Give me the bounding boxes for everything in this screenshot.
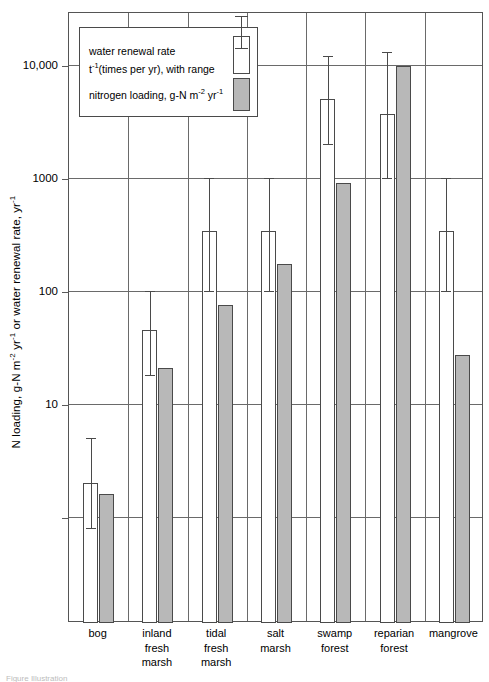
bar-nitrogen-loading-mangrove <box>455 355 470 623</box>
x-axis-label-mangrove: mangrove <box>424 626 483 641</box>
bar-nitrogen-loading-tidal-fresh-marsh <box>218 305 233 623</box>
category-separator-6 <box>425 13 426 621</box>
y-axis-title-part3: or water renewal rate, yr <box>10 203 22 333</box>
error-bar-mangrove <box>446 178 447 291</box>
error-bar-cap-bottom-bog <box>86 528 96 529</box>
x-axis-label-line: mangrove <box>424 626 483 641</box>
legend-entry-nitrogen-loading: nitrogen loading, g-N m-2 yr-1 <box>89 85 241 102</box>
legend-entry-water-renewal-rate: water renewal rate t-1(times per yr), wi… <box>89 45 229 76</box>
x-axis-label-tidal-fresh-marsh: tidalfreshmarsh <box>187 626 246 670</box>
bar-nitrogen-loading-salt-marsh <box>277 264 292 623</box>
y-tick-1 <box>62 518 69 519</box>
legend-error-bar-cap-bottom <box>235 48 248 49</box>
legend-error-bar-cap-top <box>235 16 248 17</box>
error-bar-cap-bottom-inland-fresh-marsh <box>145 375 155 376</box>
category-separator-5 <box>365 13 366 621</box>
legend-entry2-mid: yr <box>205 89 217 101</box>
y-tick-100: 100 <box>62 292 69 293</box>
bar-nitrogen-loading-swamp-forest <box>336 183 351 623</box>
legend-entry1-line2: t-1(times per yr), with range <box>89 59 229 76</box>
x-axis-label-line: marsh <box>187 655 246 670</box>
y-tick-label-10: 10 <box>45 398 58 410</box>
y-axis-title-part2: yr <box>10 340 22 353</box>
x-axis-label-line: marsh <box>246 641 305 656</box>
x-axis-label-bog: bog <box>68 626 127 641</box>
y-tick-10000: 10,000 <box>62 66 69 67</box>
chart-page: N loading, g-N m-2 yr-1 or water renewal… <box>0 0 489 682</box>
x-axis-label-line: bog <box>68 626 127 641</box>
x-axis-label-salt-marsh: saltmarsh <box>246 626 305 655</box>
y-tick-label-100: 100 <box>39 285 58 297</box>
bar-water-renewal-rate-reparian-forest <box>380 114 395 623</box>
legend-entry2-pre: nitrogen loading, g-N m <box>89 89 198 101</box>
bar-nitrogen-loading-bog <box>99 494 114 623</box>
y-tick-label-1000: 1000 <box>32 172 58 184</box>
x-axis-label-line: reparian <box>364 626 423 641</box>
y-tick-1000: 1000 <box>62 179 69 180</box>
y-axis-title-part1: N loading, g-N m <box>10 360 22 448</box>
legend-entry1-line1: water renewal rate <box>89 45 229 59</box>
error-bar-cap-bottom-salt-marsh <box>264 291 274 292</box>
error-bar-bog <box>91 438 92 528</box>
y-axis-title-sup2: -1 <box>8 333 17 340</box>
error-bar-inland-fresh-marsh <box>150 291 151 375</box>
x-axis-label-swamp-forest: swampforest <box>305 626 364 655</box>
error-bar-cap-bottom-tidal-fresh-marsh <box>204 291 214 292</box>
x-axis-label-line: swamp <box>305 626 364 641</box>
error-bar-cap-top-bog <box>86 438 96 439</box>
error-bar-cap-top-swamp-forest <box>323 56 333 57</box>
legend-entry2-sup1: -2 <box>198 87 205 96</box>
legend-entry1-line2-post: (times per yr), with range <box>99 62 215 74</box>
chart-legend: water renewal rate t-1(times per yr), wi… <box>79 27 258 117</box>
legend-entry2-sup2: -1 <box>217 87 224 96</box>
y-axis-title-sup3: -1 <box>8 196 17 203</box>
x-axis-label-line: marsh <box>127 655 186 670</box>
gridline-1000: 1000 <box>69 178 482 179</box>
error-bar-cap-bottom-mangrove <box>441 291 451 292</box>
error-bar-swamp-forest <box>328 56 329 144</box>
x-axis-label-line: fresh <box>187 641 246 656</box>
y-tick-10: 10 <box>62 405 69 406</box>
figure-caption: Figure Illustration <box>6 674 67 682</box>
x-axis-label-line: fresh <box>127 641 186 656</box>
error-bar-salt-marsh <box>269 178 270 291</box>
category-separator-4 <box>306 13 307 621</box>
x-axis-label-line: forest <box>305 641 364 656</box>
y-tick-label-10000: 10,000 <box>23 59 58 71</box>
x-axis-label-line: inland <box>127 626 186 641</box>
legend-swatch-nitrogen-loading <box>233 78 250 111</box>
x-axis-label-line: forest <box>364 641 423 656</box>
error-bar-cap-top-reparian-forest <box>382 52 392 53</box>
legend-error-bar-line <box>241 16 242 48</box>
legend-entry1-line2-sup: -1 <box>92 61 99 70</box>
x-axis-label-inland-fresh-marsh: inlandfreshmarsh <box>127 626 186 670</box>
error-bar-cap-bottom-swamp-forest <box>323 144 333 145</box>
y-axis-title-sup1: -2 <box>8 353 17 360</box>
x-axis-label-reparian-forest: reparianforest <box>364 626 423 655</box>
x-axis-labels: boginlandfreshmarshtidalfreshmarshsaltma… <box>68 626 483 682</box>
error-bar-cap-top-tidal-fresh-marsh <box>204 178 214 179</box>
x-axis-label-line: salt <box>246 626 305 641</box>
error-bar-reparian-forest <box>387 52 388 178</box>
error-bar-cap-top-mangrove <box>441 178 451 179</box>
y-axis-title: N loading, g-N m-2 yr-1 or water renewal… <box>8 12 32 632</box>
bar-water-renewal-rate-swamp-forest <box>320 99 335 623</box>
plot-area: 10,000100010010 water renewal rate t-1(t… <box>68 12 483 622</box>
bar-nitrogen-loading-reparian-forest <box>396 66 411 623</box>
bar-nitrogen-loading-inland-fresh-marsh <box>158 368 173 623</box>
error-bar-tidal-fresh-marsh <box>209 178 210 291</box>
x-axis-label-line: tidal <box>187 626 246 641</box>
error-bar-cap-top-inland-fresh-marsh <box>145 291 155 292</box>
error-bar-cap-top-salt-marsh <box>264 178 274 179</box>
error-bar-cap-bottom-reparian-forest <box>382 178 392 179</box>
